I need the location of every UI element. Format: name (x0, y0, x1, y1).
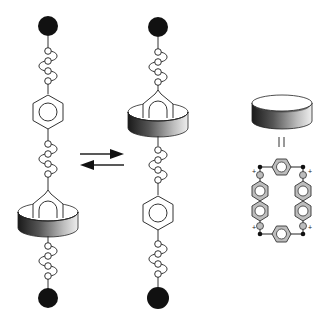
benzene-station-icon (143, 196, 173, 230)
equals-symbol (279, 137, 284, 147)
chain-segment (39, 141, 57, 178)
equilibrium-arrows-icon (80, 149, 124, 170)
benzene-station-icon (33, 95, 63, 129)
chain-segment (39, 243, 57, 280)
charge-label: + (308, 168, 312, 175)
charge-label: + (252, 224, 256, 231)
ring-shuttle-icon (128, 90, 188, 137)
top-stopper-icon (38, 16, 58, 36)
rotaxane-diagram: + + + + (0, 0, 329, 323)
cyclophane-structure-icon: + + + + (252, 159, 312, 242)
chain-segment (149, 147, 167, 184)
charge-label: + (252, 168, 256, 175)
right-rotaxane (128, 17, 188, 309)
top-stopper-icon (148, 17, 168, 37)
ring-shuttle-icon (18, 190, 78, 237)
chain-segment (149, 49, 167, 86)
legend-ring-icon (252, 95, 312, 129)
chain-segment (39, 48, 57, 85)
charge-label: + (308, 224, 312, 231)
chain-segment (149, 241, 167, 278)
bottom-stopper-icon (38, 288, 58, 308)
left-rotaxane (18, 16, 78, 308)
bottom-stopper-icon (147, 287, 169, 309)
legend: + + + + (252, 95, 312, 242)
